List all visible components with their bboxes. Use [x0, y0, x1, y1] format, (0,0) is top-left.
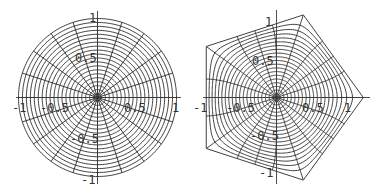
figure: 1 0.5 -1 -0.5 0.5 1 -0.5 -1 1 0.5 -1 -0.…: [0, 0, 374, 193]
x-tick-label: 0.5: [124, 101, 146, 115]
x-tick-label: 1: [344, 101, 351, 115]
y-tick-label: 0.5: [252, 54, 274, 68]
y-tick-label: -0.5: [250, 129, 279, 143]
y-tick-label: -1: [81, 173, 95, 187]
x-tick-label: -1: [12, 101, 26, 115]
y-tick-label: 1: [265, 15, 272, 29]
pentagon-conformal-grid-plot: 1 0.5 -1 -0.5 0.5 1 -0.5 -1: [193, 10, 370, 184]
x-tick-label: -1: [193, 101, 207, 115]
x-tick-label: -0.5: [40, 101, 69, 115]
y-tick-label: 0.5: [75, 51, 97, 65]
y-tick-label: 1: [89, 11, 96, 25]
y-tick-label: -1: [259, 166, 273, 180]
x-tick-label: -0.5: [226, 101, 255, 115]
y-tick-label: -0.5: [70, 132, 99, 146]
disk-polar-grid-plot: 1 0.5 -1 -0.5 0.5 1 -0.5 -1: [12, 11, 181, 187]
x-tick-label: 1: [172, 101, 179, 115]
x-tick-label: 0.5: [302, 101, 324, 115]
